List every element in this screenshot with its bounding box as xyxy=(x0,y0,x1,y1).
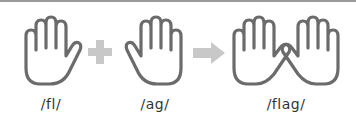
two-hands-joined-icon xyxy=(228,12,344,88)
open-hand-icon xyxy=(20,12,82,88)
open-hand-icon xyxy=(125,12,187,88)
label-flag: /flag/ xyxy=(256,96,316,112)
arrow-right-icon xyxy=(193,42,225,64)
plus-icon xyxy=(88,40,112,64)
label-ag: /ag/ xyxy=(130,96,180,112)
top-border xyxy=(0,0,356,2)
label-fl: /fl/ xyxy=(26,96,76,112)
